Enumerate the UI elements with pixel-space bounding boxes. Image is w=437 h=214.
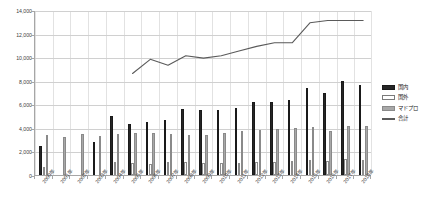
y-axis-tick-mark — [31, 129, 34, 130]
chart-legend: 国内 国外 マドプロ 合計 — [382, 82, 437, 124]
x-axis-tick-mark — [336, 176, 337, 179]
legend-swatch-goukei — [382, 116, 395, 121]
total-line-series — [35, 11, 372, 176]
legend-label-madopro: マドプロ — [398, 106, 418, 111]
legend-swatch-madopro — [382, 106, 395, 111]
y-axis-tick-label: 4,000 — [0, 126, 32, 132]
x-axis-tick-mark — [140, 176, 141, 179]
chart-container: 02,0004,0006,0008,00010,00012,00014,000 … — [0, 0, 437, 214]
x-axis-tick-mark — [229, 176, 230, 179]
legend-item-kokugai: 国外 — [382, 93, 437, 104]
x-axis-tick-mark — [300, 176, 301, 179]
y-axis-tick-label: 6,000 — [0, 102, 32, 108]
x-axis-tick-mark — [265, 176, 266, 179]
x-axis-tick-mark — [370, 176, 371, 179]
y-axis-tick-label: 0 — [0, 173, 32, 179]
legend-label-kokunai: 国内 — [398, 85, 408, 90]
y-axis-tick-mark — [31, 82, 34, 83]
legend-item-goukei: 合計 — [382, 114, 437, 125]
y-axis-tick-label: 12,000 — [0, 32, 32, 38]
y-axis-tick-label: 2,000 — [0, 149, 32, 155]
x-axis-tick-mark — [318, 176, 319, 179]
x-axis-tick-mark — [69, 176, 70, 179]
x-axis-tick-mark — [87, 176, 88, 179]
y-axis-tick-mark — [31, 11, 34, 12]
y-axis: 02,0004,0006,0008,00010,00012,00014,000 — [0, 11, 32, 176]
y-axis-tick-label: 8,000 — [0, 79, 32, 85]
x-axis-tick-mark — [52, 176, 53, 179]
x-axis-tick-mark — [353, 176, 354, 179]
legend-swatch-kokugai — [382, 95, 395, 100]
x-axis-tick-mark — [282, 176, 283, 179]
plot-area — [34, 11, 371, 176]
x-axis-tick-mark — [123, 176, 124, 179]
x-axis-tick-mark — [105, 176, 106, 179]
legend-label-kokugai: 国外 — [398, 95, 408, 100]
y-axis-tick-mark — [31, 105, 34, 106]
y-axis-tick-mark — [31, 58, 34, 59]
y-axis-tick-label: 10,000 — [0, 55, 32, 61]
x-axis-tick-mark — [176, 176, 177, 179]
x-axis-tick-mark — [211, 176, 212, 179]
legend-item-madopro: マドプロ — [382, 103, 437, 114]
x-axis-tick-mark — [158, 176, 159, 179]
x-axis-tick-mark — [247, 176, 248, 179]
x-axis-tick-mark — [194, 176, 195, 179]
x-axis-tick-mark — [34, 176, 35, 179]
legend-label-goukei: 合計 — [398, 116, 408, 121]
y-axis-tick-label: 14,000 — [0, 8, 32, 14]
legend-swatch-kokunai — [382, 85, 395, 90]
y-axis-tick-mark — [31, 152, 34, 153]
bar-kokunai — [93, 142, 96, 175]
y-axis-tick-mark — [31, 35, 34, 36]
legend-item-kokunai: 国内 — [382, 82, 437, 93]
